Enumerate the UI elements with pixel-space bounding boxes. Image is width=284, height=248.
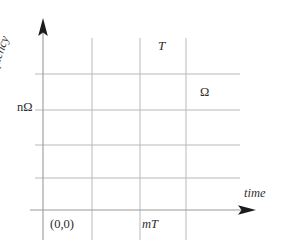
time-frequency-lattice-figure: frequency time T Ω nΩ (0,0) mT [0,0,284,248]
x-axis-label: time [244,187,266,200]
x-axis [30,205,256,215]
grid-spacing-T-label: T [158,39,165,52]
y-axis [38,18,48,240]
lattice-grid-svg [0,0,284,248]
x-tick-label-mT: mT [142,218,158,231]
grid-spacing-omega-label: Ω [200,86,209,99]
origin-label: (0,0) [50,218,74,231]
y-tick-label-n-omega: nΩ [17,101,33,114]
